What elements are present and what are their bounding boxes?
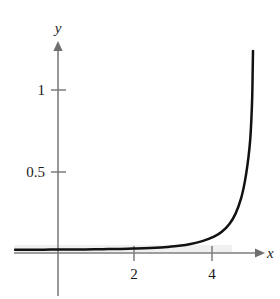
y-tick-label-1: 1	[38, 82, 46, 98]
y-tick-label-0-5: 0.5	[26, 164, 45, 180]
figure-container: x 2 4 y 0.5 1	[0, 0, 280, 299]
x-tick-label-4: 4	[208, 266, 216, 282]
x-axis-label: x	[266, 245, 274, 261]
x-tick-label-2: 2	[130, 266, 138, 282]
plot-background	[0, 0, 280, 299]
y-axis-label: y	[53, 20, 62, 36]
plot-canvas: x 2 4 y 0.5 1	[0, 0, 280, 299]
